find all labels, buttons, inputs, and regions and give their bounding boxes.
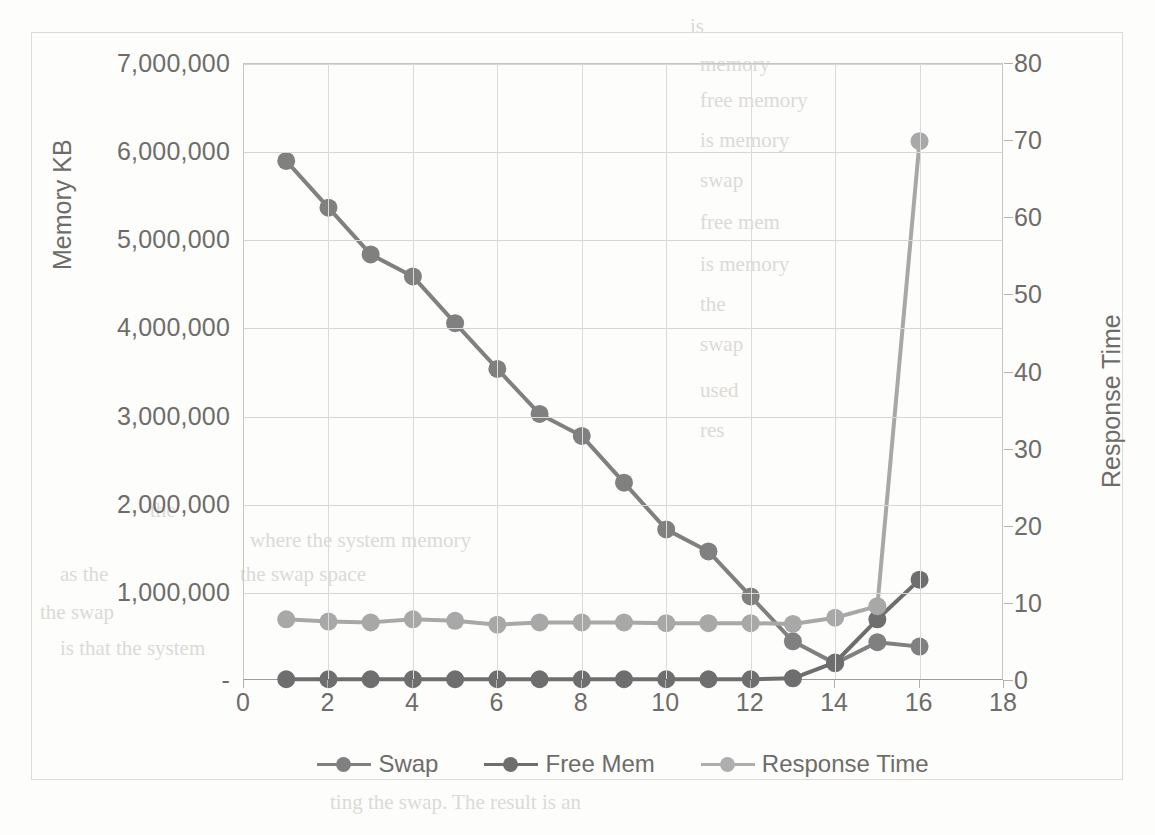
data-point bbox=[699, 670, 717, 688]
y-axis-left-tick-label: 2,000,000 bbox=[117, 489, 230, 518]
y-axis-right-tick-label: 30 bbox=[1014, 434, 1042, 463]
gridline-horizontal bbox=[244, 240, 1002, 241]
data-point bbox=[615, 670, 633, 688]
x-axis-tick-label: 8 bbox=[574, 688, 588, 717]
x-axis-ticks: 024681012141618 bbox=[243, 688, 1003, 724]
y-axis-left-ticks: -1,000,0002,000,0003,000,0004,000,0005,0… bbox=[55, 63, 230, 680]
data-point bbox=[868, 597, 886, 615]
chart-page: is memory free memory is memory swap fre… bbox=[0, 0, 1155, 835]
gridline-horizontal bbox=[244, 505, 1002, 506]
legend-marker-icon bbox=[484, 756, 538, 772]
data-point bbox=[277, 152, 295, 170]
y-axis-right-tick-label: 80 bbox=[1014, 49, 1042, 78]
gridline-horizontal bbox=[244, 328, 1002, 329]
series-layer bbox=[244, 64, 1004, 681]
y-axis-right-tick-label: 60 bbox=[1014, 203, 1042, 232]
legend-item-label: Free Mem bbox=[545, 750, 654, 778]
y-axis-left-tick-label: 7,000,000 bbox=[117, 49, 230, 78]
plot-area bbox=[243, 63, 1003, 680]
x-axis-tick-label: 6 bbox=[489, 688, 503, 717]
gridline-horizontal bbox=[244, 152, 1002, 153]
gridline-vertical bbox=[582, 64, 583, 679]
x-axis-tick-label: 12 bbox=[736, 688, 764, 717]
x-axis-tick bbox=[243, 680, 244, 688]
data-point bbox=[277, 610, 295, 628]
x-axis-tick bbox=[496, 680, 497, 688]
x-axis-tick-label: 2 bbox=[320, 688, 334, 717]
x-axis-tick-label: 4 bbox=[405, 688, 419, 717]
x-axis-tick bbox=[750, 680, 751, 688]
data-point bbox=[446, 670, 464, 688]
y2-axis-title: Response Time bbox=[1097, 314, 1126, 488]
x-axis-tick bbox=[412, 680, 413, 688]
data-point bbox=[784, 669, 802, 687]
x-axis-tick bbox=[919, 680, 920, 688]
series-response-time bbox=[277, 132, 928, 634]
x-axis-tick-label: 16 bbox=[905, 688, 933, 717]
y-axis-left-tick-label: 6,000,000 bbox=[117, 137, 230, 166]
legend-marker-icon bbox=[317, 756, 371, 772]
y-axis-right-tick-label: 10 bbox=[1014, 588, 1042, 617]
x-axis-tick bbox=[665, 680, 666, 688]
y-axis-right-tick-label: 70 bbox=[1014, 126, 1042, 155]
data-point bbox=[446, 612, 464, 630]
y-axis-left-tick-label: 1,000,000 bbox=[117, 577, 230, 606]
y-axis-left-tick-label: 5,000,000 bbox=[117, 225, 230, 254]
x-axis-tick-label: 18 bbox=[989, 688, 1017, 717]
y-axis-right-tick bbox=[1004, 449, 1013, 450]
series-swap bbox=[277, 152, 928, 672]
gridline-vertical bbox=[328, 64, 329, 679]
gridline-vertical bbox=[666, 64, 667, 679]
y-axis-right-ticks: 01020304050607080 bbox=[1014, 63, 1084, 680]
data-point bbox=[362, 245, 380, 263]
data-point bbox=[531, 405, 549, 423]
y-axis-right-tick bbox=[1004, 603, 1013, 604]
data-point bbox=[277, 670, 295, 688]
data-point bbox=[868, 633, 886, 651]
gridline-horizontal bbox=[244, 417, 1002, 418]
y-axis-title: Memory KB bbox=[48, 139, 77, 270]
y-axis-right-tick-label: 20 bbox=[1014, 511, 1042, 540]
data-point bbox=[615, 474, 633, 492]
data-point bbox=[362, 670, 380, 688]
legend-item-free-mem[interactable]: Free Mem bbox=[484, 750, 654, 778]
gridline-vertical bbox=[835, 64, 836, 679]
data-point bbox=[784, 615, 802, 633]
y-axis-right-tick-label: 50 bbox=[1014, 280, 1042, 309]
y-axis-right-tick bbox=[1004, 526, 1013, 527]
legend-item-label: Swap bbox=[378, 750, 438, 778]
x-axis-tick bbox=[1003, 680, 1004, 688]
data-point bbox=[362, 613, 380, 631]
y-axis-right-tick-label: 40 bbox=[1014, 357, 1042, 386]
y-axis-right-tick bbox=[1004, 372, 1013, 373]
data-point bbox=[446, 314, 464, 332]
y-axis-right-tick bbox=[1004, 140, 1013, 141]
data-point bbox=[531, 670, 549, 688]
x-axis-tick bbox=[327, 680, 328, 688]
chart-legend: SwapFree MemResponse Time bbox=[243, 742, 1003, 786]
legend-marker-icon bbox=[701, 756, 755, 772]
series-line bbox=[286, 141, 919, 625]
legend-item-response-time[interactable]: Response Time bbox=[701, 750, 929, 778]
legend-item-swap[interactable]: Swap bbox=[317, 750, 438, 778]
series-line bbox=[286, 580, 919, 680]
data-point bbox=[699, 542, 717, 560]
gridline-vertical bbox=[497, 64, 498, 679]
x-axis-tick-label: 0 bbox=[236, 688, 250, 717]
y-axis-right-tick bbox=[1004, 680, 1013, 681]
data-point bbox=[531, 613, 549, 631]
y-axis-right-tick bbox=[1004, 63, 1013, 64]
gridline-vertical bbox=[920, 64, 921, 679]
data-point bbox=[699, 614, 717, 632]
gridline-horizontal bbox=[244, 64, 1002, 65]
x-axis-tick-label: 10 bbox=[651, 688, 679, 717]
y-axis-left-tick-label: - bbox=[221, 666, 230, 695]
data-point bbox=[784, 632, 802, 650]
x-axis-tick-label: 14 bbox=[820, 688, 848, 717]
paper-bleed-text: ting the swap. The result is an bbox=[330, 790, 581, 815]
gridline-vertical bbox=[751, 64, 752, 679]
y-axis-left-tick-label: 4,000,000 bbox=[117, 313, 230, 342]
y-axis-right-tick bbox=[1004, 294, 1013, 295]
y-axis-right-tick bbox=[1004, 217, 1013, 218]
x-axis-tick bbox=[581, 680, 582, 688]
